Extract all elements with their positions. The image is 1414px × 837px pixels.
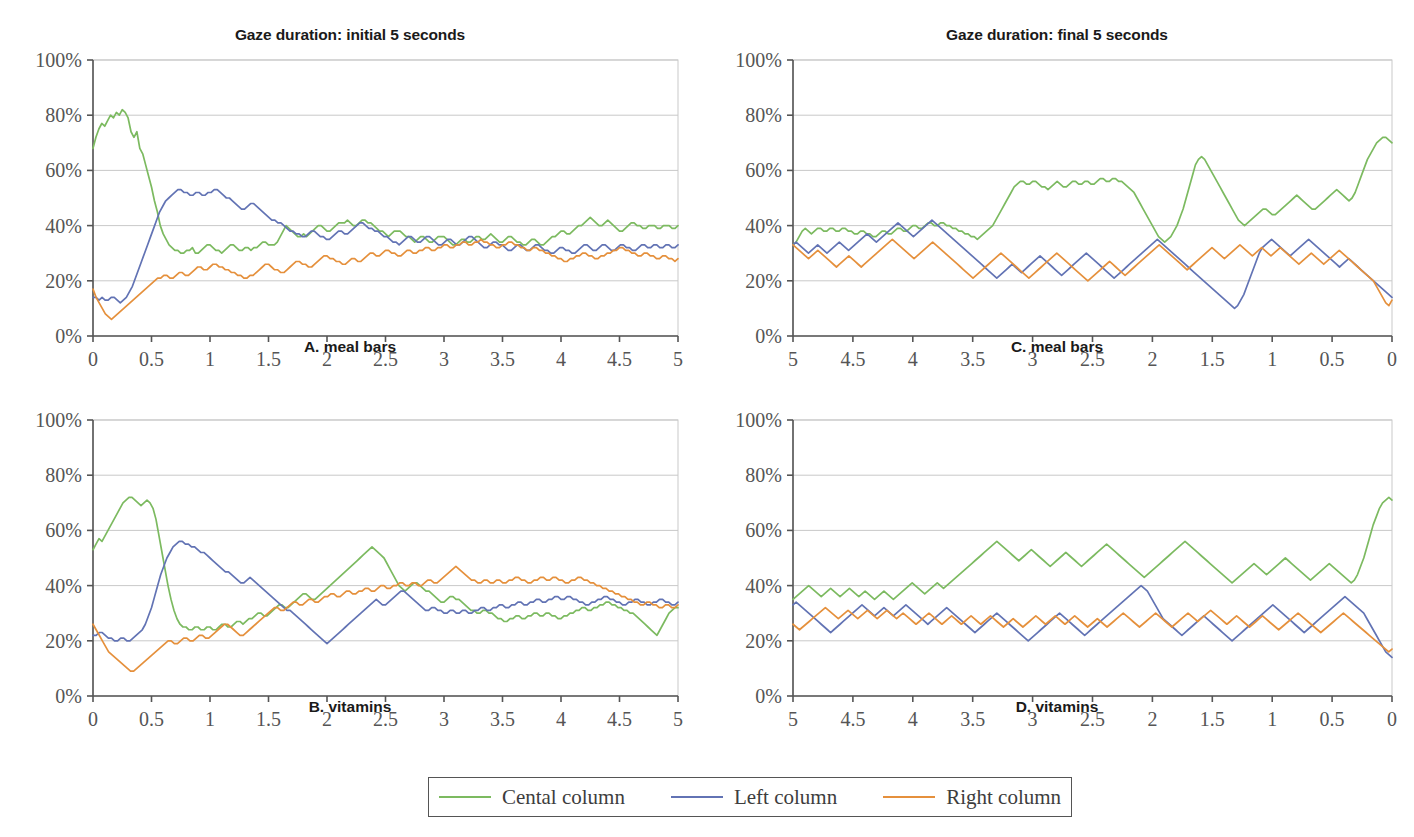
panel-d-plot: 0%20%40%60%80%100%54.543.532.521.510.50	[700, 408, 1414, 748]
y-tick-label-100: 100%	[735, 409, 782, 431]
y-tick-label-60: 60%	[45, 159, 82, 181]
legend-label-right: Right column	[946, 785, 1061, 810]
y-tick-label-40: 40%	[745, 215, 782, 237]
panel-d: 0%20%40%60%80%100%54.543.532.521.510.50 …	[700, 408, 1414, 748]
y-tick-label-40: 40%	[45, 575, 82, 597]
panel-c-caption: C. meal bars	[700, 338, 1414, 356]
y-tick-label-100: 100%	[35, 49, 82, 71]
plot-area-B: 0%20%40%60%80%100%00.511.522.533.544.55	[0, 408, 700, 748]
y-tick-label-40: 40%	[45, 215, 82, 237]
legend-swatch-central-icon	[439, 796, 491, 798]
y-tick-label-100: 100%	[735, 49, 782, 71]
plot-area-D: 0%20%40%60%80%100%54.543.532.521.510.50	[700, 408, 1414, 748]
y-tick-label-60: 60%	[45, 519, 82, 541]
legend-swatch-left-icon	[671, 796, 723, 798]
y-tick-label-20: 20%	[745, 630, 782, 652]
panel-b-plot: 0%20%40%60%80%100%00.511.522.533.544.55	[0, 408, 700, 748]
y-tick-label-60: 60%	[745, 519, 782, 541]
panel-c-plot: 0%20%40%60%80%100%54.543.532.521.510.50	[700, 48, 1414, 388]
y-tick-label-80: 80%	[45, 464, 82, 486]
y-tick-label-80: 80%	[45, 104, 82, 126]
panel-a-title: Gaze duration: initial 5 seconds	[0, 26, 700, 44]
legend-entry-central[interactable]: Cental column	[439, 785, 625, 810]
plot-area-C: 0%20%40%60%80%100%54.543.532.521.510.50	[700, 48, 1414, 388]
plot-frame	[793, 420, 1392, 696]
y-tick-label-40: 40%	[745, 575, 782, 597]
y-tick-label-80: 80%	[745, 464, 782, 486]
y-tick-label-80: 80%	[745, 104, 782, 126]
y-tick-label-20: 20%	[45, 270, 82, 292]
legend: Cental column Left column Right column	[428, 777, 1072, 817]
legend-swatch-right-icon	[883, 796, 935, 798]
panel-c: Gaze duration: final 5 seconds 0%20%40%6…	[700, 26, 1414, 366]
y-tick-label-60: 60%	[745, 159, 782, 181]
panel-d-caption: D. vitamins	[700, 698, 1414, 716]
y-tick-label-100: 100%	[35, 409, 82, 431]
panel-a: Gaze duration: initial 5 seconds 0%20%40…	[0, 26, 700, 366]
panel-b: 0%20%40%60%80%100%00.511.522.533.544.55 …	[0, 408, 700, 748]
gaze-duration-figure: Gaze duration: initial 5 seconds 0%20%40…	[0, 0, 1414, 837]
panel-c-title: Gaze duration: final 5 seconds	[700, 26, 1414, 44]
plot-frame	[93, 420, 678, 696]
panel-b-caption: B. vitamins	[0, 698, 700, 716]
panel-a-caption: A. meal bars	[0, 338, 700, 356]
y-tick-label-20: 20%	[45, 630, 82, 652]
plot-frame	[793, 60, 1392, 336]
legend-label-left: Left column	[734, 785, 837, 810]
legend-entry-left[interactable]: Left column	[671, 785, 837, 810]
legend-entry-right[interactable]: Right column	[883, 785, 1061, 810]
panel-a-plot: 0%20%40%60%80%100%00.511.522.533.544.55	[0, 48, 700, 388]
plot-area-A: 0%20%40%60%80%100%00.511.522.533.544.55	[0, 48, 700, 388]
legend-label-central: Cental column	[502, 785, 625, 810]
plot-frame	[93, 60, 678, 336]
y-tick-label-20: 20%	[745, 270, 782, 292]
